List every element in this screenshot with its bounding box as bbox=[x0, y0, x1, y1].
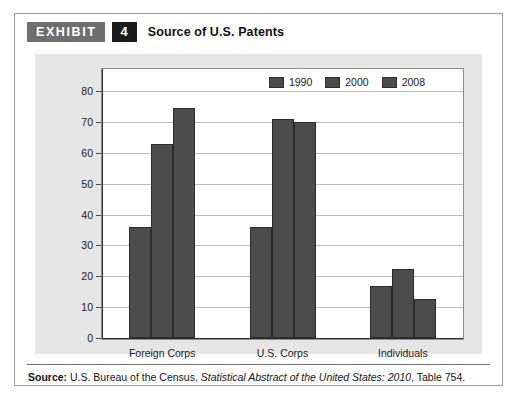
y-tick-label: 70 bbox=[67, 117, 93, 127]
legend-swatch-icon bbox=[325, 77, 340, 88]
x-axis-label: Foreign Corps bbox=[92, 347, 232, 359]
chart-legend: 199020002008 bbox=[269, 77, 425, 88]
bar[interactable] bbox=[151, 144, 173, 339]
exhibit-header: EXHIBIT 4 Source of U.S. Patents bbox=[15, 14, 502, 50]
legend-label: 2000 bbox=[345, 77, 368, 88]
bar-group bbox=[370, 68, 436, 338]
source-label: Source: bbox=[28, 371, 67, 383]
legend-item[interactable]: 2008 bbox=[382, 77, 425, 88]
bar[interactable] bbox=[294, 122, 316, 338]
plot-area bbox=[102, 69, 463, 339]
source-line: Source: U.S. Bureau of the Census, Stati… bbox=[28, 370, 490, 384]
y-tick-label: 60 bbox=[67, 148, 93, 158]
legend-item[interactable]: 1990 bbox=[269, 77, 312, 88]
x-axis-line bbox=[102, 338, 463, 339]
y-tick-label: 50 bbox=[67, 179, 93, 189]
legend-swatch-icon bbox=[269, 77, 284, 88]
y-tick-label: 80 bbox=[67, 86, 93, 96]
legend-item[interactable]: 2000 bbox=[325, 77, 368, 88]
bar[interactable] bbox=[250, 227, 272, 338]
exhibit-title: Source of U.S. Patents bbox=[148, 25, 284, 39]
y-axis-title-text: Patents in thousands bbox=[29, 0, 43, 54]
bar[interactable] bbox=[272, 119, 294, 338]
bar[interactable] bbox=[392, 269, 414, 338]
legend-swatch-icon bbox=[382, 77, 397, 88]
plot-frame: 199020002008 bbox=[101, 68, 464, 340]
y-tick-label: 10 bbox=[67, 302, 93, 312]
bar[interactable] bbox=[370, 286, 392, 338]
source-text-after: , Table 754. bbox=[411, 371, 465, 383]
bar[interactable] bbox=[414, 299, 436, 338]
source-divider bbox=[27, 364, 490, 365]
bar[interactable] bbox=[129, 227, 151, 338]
y-tick-label: 0 bbox=[67, 333, 93, 343]
y-axis-line bbox=[102, 69, 103, 339]
exhibit-figure: EXHIBIT 4 Source of U.S. Patents Patents… bbox=[14, 13, 503, 386]
bar-group bbox=[129, 68, 195, 338]
y-tick-label: 20 bbox=[67, 271, 93, 281]
y-tick-label: 30 bbox=[67, 240, 93, 250]
exhibit-number-badge: 4 bbox=[112, 22, 137, 43]
y-axis-title: Patents in thousands bbox=[29, 0, 43, 54]
bar-group bbox=[250, 68, 316, 338]
source-text-before: U.S. Bureau of the Census, bbox=[67, 371, 201, 383]
bar[interactable] bbox=[173, 108, 195, 338]
x-axis-label: Individuals bbox=[333, 347, 473, 359]
source-publication-title: Statistical Abstract of the United State… bbox=[201, 371, 411, 383]
legend-label: 2008 bbox=[402, 77, 425, 88]
x-axis-label: U.S. Corps bbox=[213, 347, 353, 359]
legend-label: 1990 bbox=[289, 77, 312, 88]
y-tick-label: 40 bbox=[67, 210, 93, 220]
chart-panel: Patents in thousands 01020304050607080 1… bbox=[35, 54, 482, 354]
